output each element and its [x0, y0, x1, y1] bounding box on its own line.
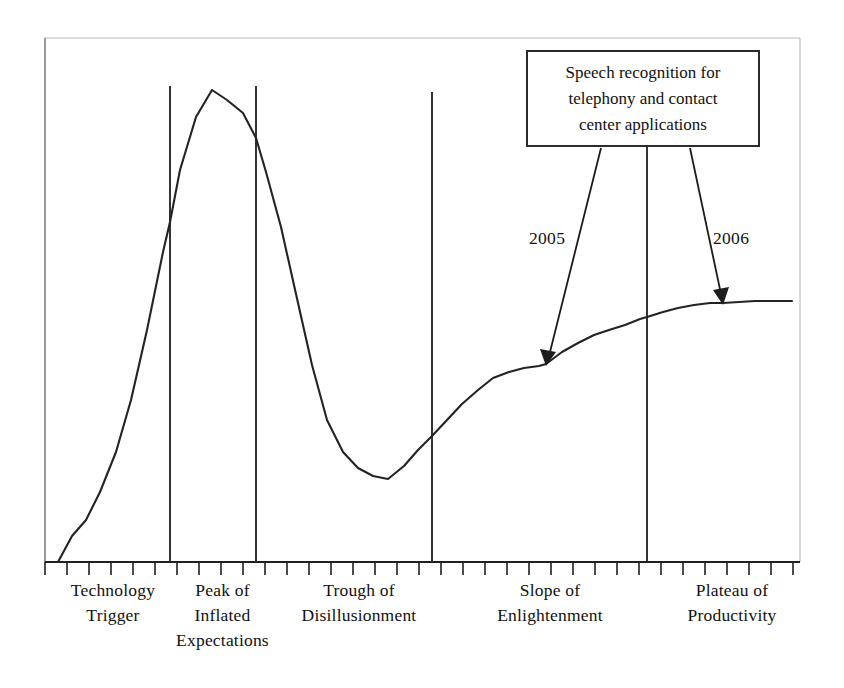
axis-label-technology-trigger-line1: Technology	[52, 578, 174, 603]
axis-label-plateau-line1: Plateau of	[664, 578, 800, 603]
x-axis	[45, 562, 800, 575]
callout-line-1: Speech recognition for	[566, 63, 721, 82]
arrow-2006	[690, 148, 729, 305]
year-label-2005: 2005	[529, 228, 565, 249]
hype-cycle-figure: Speech recognition for telephony and con…	[0, 0, 844, 688]
axis-label-slope-of-enlightenment: Slope of Enlightenment	[479, 578, 621, 628]
arrow-2005	[540, 148, 601, 366]
axis-label-peak-line2: Inflated	[160, 603, 285, 628]
axis-label-peak-of-inflated-expectations: Peak of Inflated Expectations	[160, 578, 285, 653]
axis-label-peak-line1: Peak of	[160, 578, 285, 603]
axis-label-trough-of-disillusionment: Trough of Disillusionment	[285, 578, 433, 628]
axis-label-technology-trigger: Technology Trigger	[52, 578, 174, 628]
hype-cycle-curve	[58, 90, 792, 562]
stage-dividers	[170, 86, 647, 562]
x-axis-ticks	[45, 562, 793, 575]
axis-label-slope-line1: Slope of	[479, 578, 621, 603]
axis-label-slope-line2: Enlightenment	[479, 603, 621, 628]
axis-label-plateau-line2: Productivity	[664, 603, 800, 628]
year-label-2006: 2006	[713, 228, 749, 249]
callout-box-text: Speech recognition for telephony and con…	[558, 60, 729, 138]
axis-label-trough-line2: Disillusionment	[285, 603, 433, 628]
axis-label-plateau-of-productivity: Plateau of Productivity	[664, 578, 800, 628]
axis-label-peak-line3: Expectations	[160, 628, 285, 653]
callout-line-2: telephony and contact	[568, 89, 717, 108]
callout-box: Speech recognition for telephony and con…	[526, 50, 760, 147]
axis-label-technology-trigger-line2: Trigger	[52, 603, 174, 628]
axis-label-trough-line1: Trough of	[285, 578, 433, 603]
callout-line-3: center applications	[579, 115, 707, 134]
